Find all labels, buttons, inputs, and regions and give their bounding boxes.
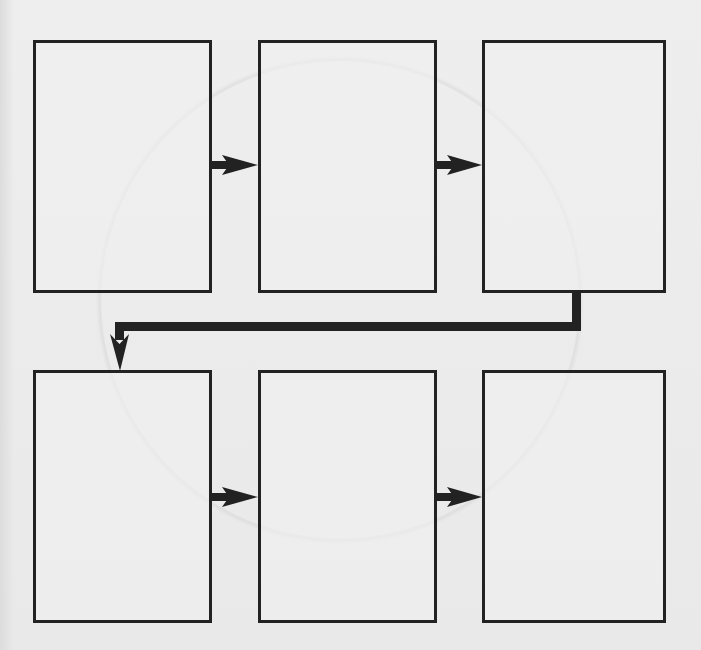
arrow-step-1-to-step-2	[211, 155, 258, 175]
arrow-step-2-to-step-3	[436, 155, 482, 175]
arrow-step-4-to-step-5	[211, 487, 258, 507]
process-step-6	[482, 370, 666, 623]
arrow-step-5-to-step-6	[436, 487, 482, 507]
process-step-1	[33, 40, 212, 293]
process-step-2	[258, 40, 437, 293]
process-step-4	[33, 370, 212, 623]
process-step-3	[482, 40, 666, 293]
process-step-5	[258, 370, 437, 623]
elbow-arrow-step-3-to-step-4	[110, 290, 581, 371]
